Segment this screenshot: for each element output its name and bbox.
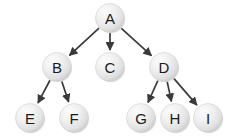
edge-d-to-i	[174, 78, 197, 105]
node-label-d: D	[159, 59, 170, 76]
node-label-g: G	[135, 110, 147, 127]
node-b[interactable]: B	[43, 53, 73, 83]
node-f[interactable]: F	[60, 104, 90, 134]
node-label-h: H	[170, 110, 181, 127]
edge-a-to-b	[69, 28, 99, 55]
node-h[interactable]: H	[161, 104, 191, 134]
edge-a-to-d	[121, 28, 151, 55]
edge-d-to-h	[167, 82, 171, 102]
node-g[interactable]: G	[127, 104, 157, 134]
node-label-e: E	[25, 110, 35, 127]
diagram-canvas: ABCDEFGHI	[0, 0, 236, 140]
node-label-a: A	[105, 10, 115, 27]
node-label-i: I	[206, 110, 210, 127]
node-d[interactable]: D	[150, 53, 180, 83]
node-label-b: B	[52, 59, 62, 76]
node-i[interactable]: I	[194, 104, 224, 134]
tree-diagram: ABCDEFGHI	[0, 0, 236, 140]
nodes-layer: ABCDEFGHI	[16, 4, 224, 134]
edge-b-to-f	[62, 81, 69, 102]
node-e[interactable]: E	[16, 104, 46, 134]
edge-d-to-g	[148, 81, 158, 103]
node-label-f: F	[69, 110, 78, 127]
edge-b-to-e	[38, 80, 50, 103]
node-label-c: C	[105, 59, 116, 76]
node-c[interactable]: C	[96, 53, 126, 83]
node-a[interactable]: A	[96, 4, 126, 34]
